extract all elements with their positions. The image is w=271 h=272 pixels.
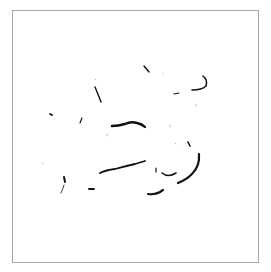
small-slash xyxy=(80,118,82,123)
faint-7 xyxy=(175,143,176,144)
right-big-curve xyxy=(178,154,199,183)
top-tick xyxy=(144,66,149,72)
bottom-left-faint xyxy=(61,185,64,193)
faint-6 xyxy=(42,163,43,164)
mid-long-line xyxy=(100,161,145,173)
small-dash-top xyxy=(174,93,179,94)
left-slanted-line xyxy=(95,87,101,102)
right-small-mark xyxy=(188,142,190,146)
faint-2 xyxy=(163,73,164,74)
right-small-curve xyxy=(162,173,176,176)
ink-strokes xyxy=(50,66,207,194)
top-right-hook xyxy=(192,76,207,90)
left-dot xyxy=(50,114,52,115)
faint-1 xyxy=(95,79,96,80)
bottom-dash xyxy=(148,190,163,194)
faint-marks xyxy=(42,73,196,164)
bottom-left-vertical xyxy=(64,177,65,182)
sketch-strokes xyxy=(0,0,271,272)
central-wave xyxy=(112,122,145,127)
